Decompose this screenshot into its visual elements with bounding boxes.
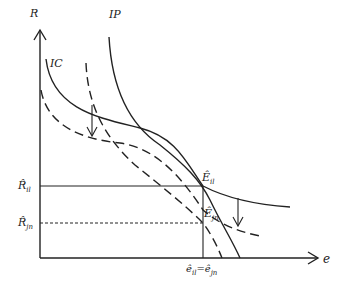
point-e-il-label: Êil <box>202 172 215 186</box>
r-il-tick-label: R̂il <box>18 180 31 194</box>
e-equilibrium-tick-label: êil=êjn <box>186 264 217 277</box>
economics-diagram: R e IC IP Êil Êjn R̂il R̂jn êil=êjn <box>0 0 345 286</box>
ic-shifted-dashed-curve <box>41 90 260 236</box>
ic-curve-label: IC <box>50 58 63 69</box>
point-e-jn-label: Êjn <box>204 208 219 222</box>
ip-shifted-dashed-curve <box>86 63 222 258</box>
ip-curve-label: IP <box>109 9 121 20</box>
ic-curve <box>46 59 290 207</box>
diagram-canvas <box>0 0 345 286</box>
r-jn-tick-label: R̂jn <box>18 217 33 231</box>
y-axis-label: R <box>30 8 38 19</box>
x-axis-label: e <box>323 253 330 265</box>
